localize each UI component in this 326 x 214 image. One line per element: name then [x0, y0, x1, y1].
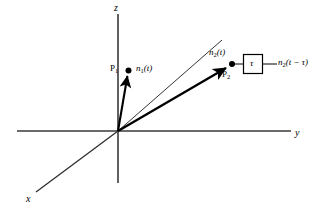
- signal-label-n2: n2(t): [209, 48, 225, 58]
- point-marker-p1: [126, 68, 132, 74]
- axis-label-x: x: [26, 194, 30, 204]
- signal-label-n2-arg: (t): [217, 47, 226, 57]
- axis-label-z: z: [114, 3, 118, 13]
- point-label-p1-subscript: 1: [115, 67, 118, 74]
- reference-ray-line: [118, 40, 222, 131]
- delay-block-output-label: n2(t − τ): [278, 58, 308, 68]
- axis-x-line: [36, 131, 118, 192]
- vector-to-p2: [118, 68, 226, 131]
- figure-canvas: z y x P1 n1(t) n2(t) P2 τ n2(t − τ): [0, 0, 326, 214]
- point-label-p1: P1: [110, 64, 118, 74]
- point-label-p2-subscript: 2: [227, 73, 230, 80]
- diagram-svg: [0, 0, 326, 214]
- vector-to-p1: [118, 76, 127, 131]
- delay-block-symbol: τ: [250, 59, 253, 68]
- signal-label-n1: n1(t): [136, 64, 152, 74]
- signal-label-n1-arg: (t): [144, 63, 153, 73]
- point-label-p2: P2: [222, 70, 230, 80]
- axis-label-y: y: [295, 128, 299, 138]
- delay-block-output-arg: (t − τ): [286, 57, 308, 67]
